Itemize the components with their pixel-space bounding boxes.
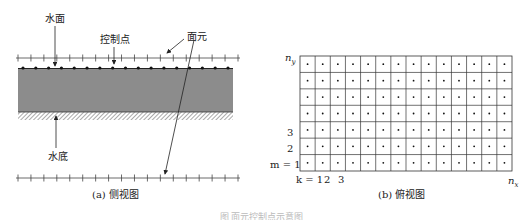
surface-element-arrow-top [167, 39, 184, 53]
cell-control-point [413, 113, 415, 115]
control-point [21, 66, 24, 69]
cell-control-point [398, 113, 400, 115]
cell-control-point [504, 162, 506, 164]
cell-control-point [473, 96, 475, 98]
control-point [34, 66, 37, 69]
cell-control-point [413, 96, 415, 98]
col-label-3: 3 [338, 174, 344, 186]
cell-control-point [352, 129, 354, 131]
cell-control-point [488, 113, 490, 115]
control-point-label: 控制点 [100, 34, 130, 46]
diagram-canvas [0, 0, 523, 220]
cell-control-point [458, 63, 460, 65]
cell-control-point [488, 96, 490, 98]
side-view-caption: (a) 侧视图 [92, 189, 139, 201]
cell-control-point [322, 80, 324, 82]
cell-control-point [337, 129, 339, 131]
cell-control-point [413, 145, 415, 147]
cell-control-point [428, 80, 430, 82]
cell-control-point [428, 145, 430, 147]
cell-control-point [488, 162, 490, 164]
cell-control-point [337, 162, 339, 164]
cell-control-point [458, 145, 460, 147]
cell-control-point [428, 129, 430, 131]
cell-control-point [367, 96, 369, 98]
col-label-1: k = 1 [296, 174, 323, 186]
cell-control-point [443, 63, 445, 65]
cell-control-point [488, 63, 490, 65]
ny-label: ny [285, 52, 295, 68]
cell-control-point [504, 80, 506, 82]
control-point [162, 66, 165, 69]
cell-grid [300, 56, 512, 171]
cell-control-point [322, 96, 324, 98]
cell-control-point [337, 113, 339, 115]
top-view [300, 56, 512, 171]
cell-control-point [504, 145, 506, 147]
top-view-caption: (b) 俯视图 [378, 189, 425, 201]
cell-control-point [322, 113, 324, 115]
control-point [137, 66, 140, 69]
row-label-2: 2 [287, 143, 293, 155]
control-point [124, 66, 127, 69]
cell-control-point [382, 129, 384, 131]
cell-control-point [367, 162, 369, 164]
cell-control-point [307, 96, 309, 98]
cell-control-point [382, 162, 384, 164]
cell-control-point [352, 63, 354, 65]
cell-control-point [504, 113, 506, 115]
nx-label: nx [508, 175, 518, 191]
water-body [18, 68, 233, 112]
cell-control-point [307, 145, 309, 147]
cell-control-point [458, 129, 460, 131]
cell-control-point [398, 96, 400, 98]
cell-control-point [322, 63, 324, 65]
cell-control-point [337, 145, 339, 147]
cell-control-point [398, 129, 400, 131]
cell-control-point [382, 80, 384, 82]
water-surface-label: 水面 [45, 13, 65, 25]
cell-control-point [473, 145, 475, 147]
control-point [214, 66, 217, 69]
cell-control-point [382, 63, 384, 65]
control-point [201, 66, 204, 69]
cell-control-point [473, 113, 475, 115]
control-point [226, 66, 229, 69]
cell-control-point [413, 80, 415, 82]
figure-caption: 图 面元控制点示意图 [0, 210, 523, 220]
cell-control-point [504, 129, 506, 131]
cell-control-point [428, 63, 430, 65]
cell-control-point [352, 162, 354, 164]
cell-control-point [307, 162, 309, 164]
cell-control-point [488, 129, 490, 131]
row-label-1: m = 1 [270, 159, 301, 171]
cell-control-point [458, 162, 460, 164]
cell-control-point [488, 145, 490, 147]
cell-control-point [458, 113, 460, 115]
cell-control-point [398, 80, 400, 82]
control-point [73, 66, 76, 69]
cell-control-point [322, 162, 324, 164]
cell-control-point [458, 80, 460, 82]
cell-control-point [443, 129, 445, 131]
cell-control-point [428, 96, 430, 98]
cell-control-point [352, 145, 354, 147]
cell-control-point [443, 113, 445, 115]
cell-control-point [367, 63, 369, 65]
cell-control-point [337, 63, 339, 65]
cell-control-point [307, 80, 309, 82]
cell-control-point [398, 63, 400, 65]
cell-control-point [382, 113, 384, 115]
cell-control-point [307, 63, 309, 65]
cell-control-point [413, 129, 415, 131]
cell-control-point [473, 129, 475, 131]
cell-control-point [352, 80, 354, 82]
cell-control-point [413, 162, 415, 164]
cell-control-point [322, 145, 324, 147]
cell-control-point [337, 80, 339, 82]
surface-element-label: 面元 [187, 31, 207, 43]
control-point [60, 66, 63, 69]
cell-control-point [504, 63, 506, 65]
cell-control-point [367, 129, 369, 131]
control-point [98, 66, 101, 69]
